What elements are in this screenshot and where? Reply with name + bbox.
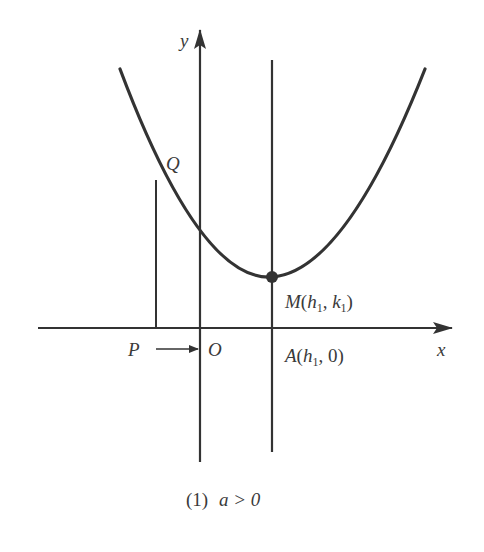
point-q-label: Q — [166, 153, 180, 174]
vertex-m-label: M(h1, k1) — [284, 291, 353, 315]
y-axis-label: y — [178, 30, 189, 51]
point-a-label: A(h1, 0) — [283, 345, 344, 369]
point-p-label: P — [127, 339, 140, 360]
x-axis-label: x — [436, 339, 446, 360]
vertex-point-m — [266, 271, 278, 283]
origin-label: O — [208, 339, 222, 360]
figure-caption: (1) a > 0 — [186, 489, 261, 511]
parabola-diagram: y x O Q P M(h1, k1) A(h1, 0) (1) a > 0 — [0, 0, 484, 552]
